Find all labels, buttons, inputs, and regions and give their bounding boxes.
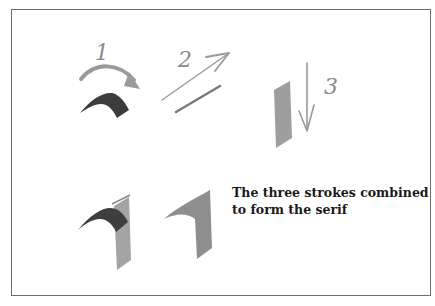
step-2: 2 xyxy=(162,47,229,112)
step-2-label: 2 xyxy=(177,47,192,72)
curved-arrow-icon xyxy=(81,66,134,80)
dark-arch-stroke xyxy=(80,93,129,118)
step-1: 1 xyxy=(80,40,140,118)
caption: The three strokes combined to form the s… xyxy=(232,184,422,218)
stroke-diagram: 1 2 3 xyxy=(0,0,435,306)
caption-line-1: The three strokes combined xyxy=(232,184,422,201)
combined-serif-final xyxy=(164,190,212,259)
thin-diagonal-stroke xyxy=(176,86,220,112)
diagonal-arrow-icon xyxy=(162,53,229,100)
combined-serif-overlapping xyxy=(78,195,131,270)
final-serif-stroke xyxy=(164,190,212,259)
caption-line-2: to form the serif xyxy=(232,201,422,218)
vertical-gray-stroke xyxy=(274,81,292,148)
step-3-label: 3 xyxy=(324,74,338,99)
step-3: 3 xyxy=(274,63,338,148)
step-1-label: 1 xyxy=(95,40,109,65)
combined-vertical-stroke xyxy=(114,197,131,270)
